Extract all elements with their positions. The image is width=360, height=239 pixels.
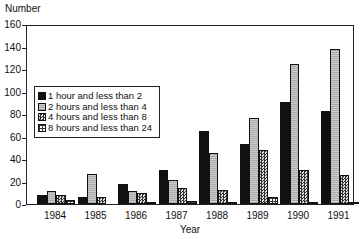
legend-item: 1 hour and less than 2 [38,91,156,102]
y-tick-label: 140 [1,42,21,53]
x-tick-label: 1989 [238,210,278,221]
bar [66,200,76,204]
bar [340,175,350,204]
legend-label: 4 hours and less than 8 [48,112,147,123]
legend-swatch-icon [38,113,46,121]
bar [228,202,238,204]
y-tick-label: 160 [1,19,21,30]
y-tick-label: 120 [1,64,21,75]
bar [37,195,47,204]
y-tick-label: 40 [1,154,21,165]
x-tick-label: 1988 [197,210,237,221]
y-tick-label: 80 [1,109,21,120]
bar [321,111,331,204]
y-tick-label: 20 [1,177,21,188]
bar [178,188,188,204]
bar [299,170,309,204]
bar [268,197,278,204]
bar [249,118,259,204]
bar [168,180,178,204]
legend-item: 8 hours and less than 24 [38,123,156,134]
bar [280,102,290,204]
bar [218,190,228,204]
bar [128,191,138,204]
bar [259,150,269,205]
bar [137,193,147,204]
legend-label: 8 hours and less than 24 [48,123,152,134]
y-tick-label: 0 [1,199,21,210]
bar [118,184,128,204]
y-tick-mark [22,205,26,206]
x-tick-label: 1986 [116,210,156,221]
x-axis-label: Year [0,224,360,235]
bar [309,202,319,204]
bar [47,191,57,204]
bar [187,201,197,204]
legend-swatch-icon [38,124,46,132]
x-tick-label: 1991 [319,210,359,221]
bar [290,64,300,204]
y-tick-label: 100 [1,87,21,98]
y-axis-label: Number [5,3,41,14]
y-tick-label: 60 [1,132,21,143]
legend-swatch-icon [38,92,46,100]
x-tick-label: 1984 [35,210,75,221]
bar [97,197,107,204]
bar [330,49,340,204]
bar [78,197,88,204]
bar [209,153,219,204]
bar [199,131,209,204]
x-tick-label: 1987 [157,210,197,221]
legend: 1 hour and less than 22 hours and less t… [34,86,160,138]
bar [147,202,157,204]
x-tick-label: 1990 [278,210,318,221]
legend-item: 4 hours and less than 8 [38,112,156,123]
bar [349,202,359,204]
bar [56,195,66,204]
bar [240,144,250,204]
legend-swatch-icon [38,103,46,111]
bar [159,170,169,204]
bar [87,174,97,204]
legend-label: 1 hour and less than 2 [48,91,142,102]
x-tick-label: 1985 [76,210,116,221]
